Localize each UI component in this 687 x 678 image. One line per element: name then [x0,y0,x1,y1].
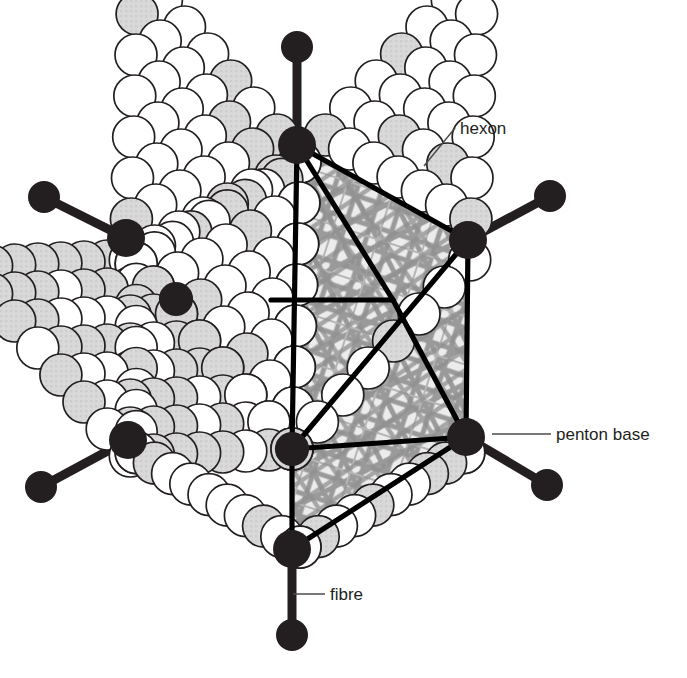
icosahedron-facet-edge [466,240,468,437]
label-hexon: hexon [460,119,506,138]
penton-base [449,221,487,259]
label-penton-base: penton base [556,425,650,444]
penton-base [159,282,193,316]
fibre-knob-bottom [276,619,308,651]
penton-base [107,219,145,257]
fibre-knob-upper-left [28,181,60,213]
fibre-knob-lower-right [531,469,563,501]
fibre-knob-top [281,31,313,63]
diagram-canvas: hexonpenton basefibre [0,0,687,678]
penton-base [275,432,309,466]
label-fibre: fibre [330,585,363,604]
penton-base [273,530,311,568]
fibre-knob-lower-left [25,471,57,503]
adenovirus-diagram: hexonpenton basefibre [0,0,687,678]
penton-base [447,418,485,456]
penton-base [109,421,147,459]
fibre-knob-upper-right [534,180,566,212]
penton-base [278,126,316,164]
